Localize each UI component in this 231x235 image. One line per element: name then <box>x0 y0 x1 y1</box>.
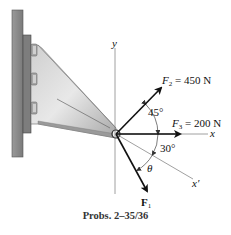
force-diagram: y x x′ 45° 30° θ F2 = 450 N F3 = 200 N <box>0 0 231 235</box>
bolt-icon <box>31 102 37 114</box>
mounting-plate <box>23 35 31 133</box>
force-f1-arrow <box>116 134 147 191</box>
bracket <box>31 45 120 138</box>
angle-arcs: 45° 30° θ <box>137 104 175 174</box>
force-f3-label: F3 = 200 N <box>171 117 221 131</box>
angle-theta-label: θ <box>147 162 153 174</box>
xprime-axis-label: x′ <box>191 177 200 189</box>
y-axis-label: y <box>111 37 117 49</box>
force-f2-label: F2 = 450 N <box>161 74 211 88</box>
angle-30-label: 30° <box>160 142 175 154</box>
force-f1-label: F1 <box>141 196 152 210</box>
arc-30 <box>152 134 158 155</box>
wall <box>12 10 23 157</box>
bolts <box>31 44 37 114</box>
bolt-icon <box>31 73 37 85</box>
figure-caption: Probs. 2–35/36 <box>0 210 231 221</box>
angle-45-label: 45° <box>148 106 163 118</box>
diagram-canvas: y x x′ 45° 30° θ F2 = 450 N F3 = 200 N <box>0 0 231 235</box>
bolt-icon <box>31 44 37 56</box>
